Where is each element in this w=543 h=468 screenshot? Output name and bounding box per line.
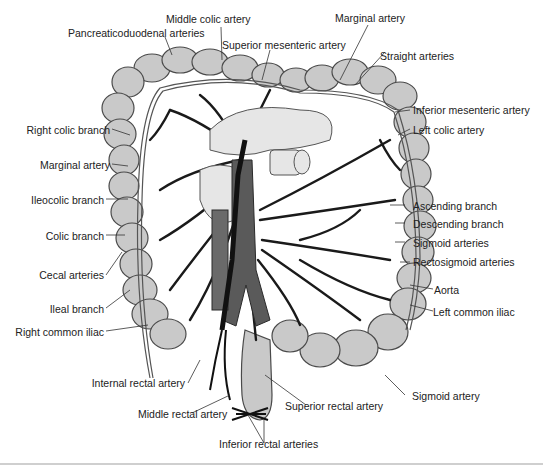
label-sigmoid-arteries: Sigmoid arteries — [413, 237, 489, 249]
label-sigmoid-artery: Sigmoid artery — [412, 390, 480, 402]
viscera — [200, 108, 332, 223]
label-superior-rectal-artery: Superior rectal artery — [285, 400, 383, 412]
label-descending-branch: Descending branch — [413, 218, 503, 230]
label-straight-arteries: Straight arteries — [380, 50, 454, 62]
label-marginal-artery-top: Marginal artery — [335, 12, 405, 24]
label-right-common-iliac: Right common iliac — [15, 326, 104, 338]
label-left-colic-artery: Left colic artery — [413, 124, 484, 136]
label-marginal-artery-left: Marginal artery — [40, 159, 110, 171]
label-ileocolic-branch: Ileocolic branch — [31, 194, 104, 206]
label-inferior-rectal-arteries: Inferior rectal arteries — [219, 438, 318, 450]
label-rectosigmoid-arteries: Rectosigmoid arteries — [413, 256, 515, 268]
label-right-colic-branch: Right colic branch — [27, 124, 110, 136]
label-inferior-mesenteric-artery: Inferior mesenteric artery — [413, 104, 530, 116]
label-superior-mesenteric-artery: Superior mesenteric artery — [222, 39, 346, 51]
label-internal-rectal-artery: Internal rectal artery — [92, 377, 185, 389]
label-left-common-iliac: Left common iliac — [433, 306, 515, 318]
label-ascending-branch: Ascending branch — [413, 200, 497, 212]
bottom-rule — [0, 463, 543, 465]
label-ileal-branch: Ileal branch — [50, 303, 104, 315]
label-colic-branch: Colic branch — [46, 230, 104, 242]
label-cecal-arteries: Cecal arteries — [39, 269, 104, 281]
label-middle-colic-artery: Middle colic artery — [166, 13, 251, 25]
label-aorta: Aorta — [434, 284, 459, 296]
colon-arterial-supply-diagram: Middle colic artery Pancreaticoduodenal … — [0, 0, 543, 468]
label-middle-rectal-artery: Middle rectal artery — [138, 408, 227, 420]
label-pancreaticoduodenal-arteries: Pancreaticoduodenal arteries — [68, 27, 205, 39]
